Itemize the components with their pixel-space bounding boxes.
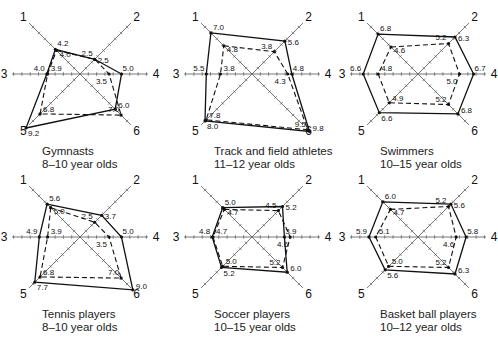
value-label: 2.5: [98, 56, 110, 65]
axis-label: 2: [471, 10, 478, 24]
value-label: 5.0: [123, 64, 135, 73]
axis-label: 5: [20, 124, 27, 138]
axis-label: 5: [192, 124, 199, 138]
axis-label: 5: [358, 124, 365, 138]
axis-label: 4: [325, 67, 332, 81]
radar-chart: 1234566.86.36.76.86.66.64.65.25.05.24.94…: [339, 10, 498, 170]
chart-title: Gymnasts: [42, 145, 94, 157]
value-label: 4.8: [199, 227, 211, 236]
value-label: 3.9: [51, 64, 63, 73]
data-point: [205, 72, 208, 75]
radar-chart: 1234564.22.55.06.09.24.04.02.53.57.06.83…: [1, 10, 160, 170]
axis-label: 3: [1, 230, 8, 244]
value-label: 5.2: [435, 95, 447, 104]
value-label: 7.0: [213, 23, 225, 32]
axis-label: 3: [339, 230, 346, 244]
value-label: 5.0: [392, 257, 404, 266]
value-label: 4.0: [60, 50, 72, 59]
value-label: 6.0: [385, 192, 397, 201]
value-label: 2.5: [82, 49, 94, 58]
axis-label: 4: [153, 230, 160, 244]
value-label: 4.6: [277, 240, 289, 249]
value-label: 9.5: [295, 120, 307, 129]
value-label: 3.9: [285, 227, 297, 236]
data-point: [107, 72, 110, 75]
data-point: [277, 209, 280, 212]
data-point: [447, 266, 450, 269]
axis-label: 1: [192, 173, 199, 187]
data-point: [38, 112, 41, 115]
chart-title: Swimmers: [380, 145, 434, 157]
value-label: 6.3: [458, 266, 470, 275]
axis-label: 6: [471, 287, 478, 301]
data-point: [38, 235, 41, 238]
value-label: 6.7: [475, 64, 487, 73]
value-label: 7.7: [37, 283, 49, 292]
radar-chart: 1234567.05.64.89.88.05.54.83.84.39.57.83…: [173, 10, 333, 170]
value-label: 7.8: [209, 111, 221, 120]
data-point: [222, 44, 225, 47]
value-label: 2.5: [82, 212, 94, 221]
data-point: [205, 118, 208, 121]
data-point: [273, 50, 276, 53]
data-point: [377, 72, 380, 75]
chart-subtitle: 10–15 year olds: [380, 158, 462, 170]
data-point: [447, 205, 450, 208]
value-label: 6.0: [118, 101, 130, 110]
axis-label: 1: [20, 10, 27, 24]
value-label: 4.8: [381, 64, 393, 73]
radar-chart: 1234566.05.65.86.35.65.94.75.24.65.25.05…: [339, 173, 498, 333]
axis-label: 1: [192, 10, 199, 24]
value-label: 4.2: [57, 39, 69, 48]
data-point: [283, 40, 286, 43]
value-label: 6.0: [290, 264, 302, 273]
value-label: 9.0: [136, 282, 148, 291]
data-point: [38, 275, 41, 278]
value-label: 4.9: [26, 227, 38, 236]
axis-label: 5: [192, 287, 199, 301]
radar-chart-grid: 1234564.22.55.06.09.24.04.02.53.57.06.83…: [0, 0, 498, 344]
data-point: [286, 72, 289, 75]
data-point: [221, 265, 224, 268]
chart-subtitle: 10–15 year olds: [214, 321, 296, 333]
value-label: 6.8: [43, 105, 55, 114]
value-label: 5.6: [454, 201, 466, 210]
value-label: 5.2: [269, 258, 281, 267]
value-label: 6.6: [350, 64, 362, 73]
data-point: [362, 72, 365, 75]
value-label: 6.3: [458, 34, 470, 43]
value-label: 5.9: [356, 227, 368, 236]
axis-label: 6: [305, 287, 312, 301]
value-label: 4.7: [216, 227, 228, 236]
data-point: [389, 208, 392, 211]
value-label: 5.2: [435, 33, 447, 42]
axis-label: 3: [339, 67, 346, 81]
series-inner-polygon: [206, 46, 308, 130]
value-label: 3.9: [51, 227, 63, 236]
data-point: [387, 265, 390, 268]
value-label: 5.2: [223, 269, 235, 278]
data-point: [219, 72, 222, 75]
value-label: 9.8: [313, 124, 325, 133]
data-point: [374, 235, 377, 238]
value-label: 4.7: [393, 208, 405, 217]
data-point: [223, 208, 226, 211]
value-label: 6.6: [381, 114, 393, 123]
axis-label: 5: [20, 287, 27, 301]
chart-title: Tennis players: [42, 308, 116, 320]
value-label: 5.6: [49, 194, 61, 203]
value-label: 5.1: [379, 227, 391, 236]
value-label: 5.0: [123, 227, 135, 236]
value-label: 5.0: [54, 207, 66, 216]
data-point: [93, 58, 96, 61]
axis-label: 1: [358, 173, 365, 187]
axis-label: 1: [20, 173, 27, 187]
data-point: [131, 288, 134, 291]
data-point: [453, 272, 456, 275]
value-label: 4.6: [394, 46, 406, 55]
value-label: 8.0: [207, 122, 219, 131]
data-point: [49, 206, 52, 209]
series-outer-polygon: [205, 33, 310, 132]
value-label: 6.8: [380, 24, 392, 33]
data-point: [289, 235, 292, 238]
